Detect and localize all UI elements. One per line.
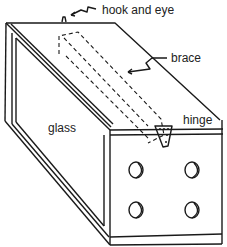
hole bbox=[129, 202, 143, 218]
hole bbox=[185, 162, 199, 178]
box-diagram: hook and eye brace hinge glass bbox=[0, 0, 227, 247]
right-end-panel bbox=[110, 120, 223, 245]
label-hinge: hinge bbox=[183, 113, 213, 127]
glass-front bbox=[16, 38, 110, 245]
hole bbox=[185, 202, 199, 218]
hole bbox=[129, 162, 143, 178]
label-glass: glass bbox=[48, 121, 76, 135]
leader-lines bbox=[71, 7, 167, 74]
hook-and-eye bbox=[62, 17, 66, 22]
label-brace: brace bbox=[171, 51, 201, 65]
box-lid bbox=[6, 23, 220, 127]
ventilation-holes bbox=[129, 162, 199, 218]
label-hook-and-eye: hook and eye bbox=[102, 3, 174, 17]
